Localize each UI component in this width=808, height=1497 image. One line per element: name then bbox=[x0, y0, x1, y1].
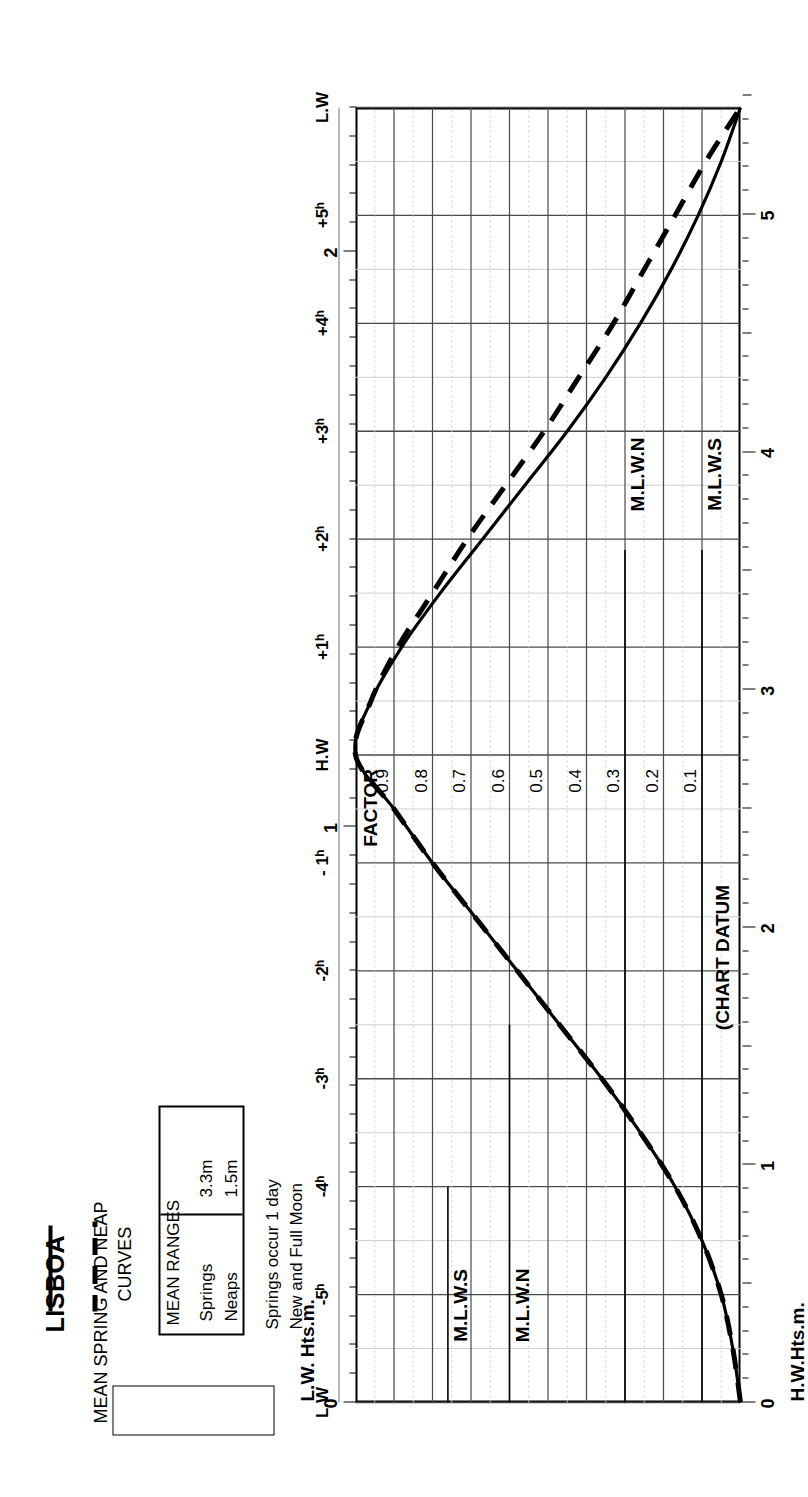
lw-tick bbox=[349, 1056, 356, 1057]
lw-tick bbox=[349, 710, 356, 711]
hw-tick bbox=[742, 427, 748, 428]
hw-tick bbox=[742, 736, 748, 737]
hw-tick bbox=[742, 284, 748, 285]
lw-tick bbox=[349, 1142, 356, 1143]
lw-tick bbox=[349, 1286, 356, 1287]
lw-tick bbox=[349, 1372, 356, 1373]
hw-tick bbox=[742, 1306, 748, 1307]
factor-axis-title: FACTOR bbox=[359, 768, 380, 846]
lw-tick bbox=[349, 1343, 356, 1344]
hw-height-axis: 012345 bbox=[742, 107, 788, 1402]
lw-tick bbox=[349, 365, 356, 366]
lw-tick bbox=[349, 221, 356, 222]
lw-tick-label-1: 1 bbox=[320, 822, 341, 832]
legend-row-springs-name: Springs bbox=[196, 1263, 216, 1321]
hw-tick bbox=[742, 569, 751, 570]
lw-tick bbox=[349, 451, 356, 452]
hw-tick bbox=[742, 926, 755, 927]
hw-tick bbox=[742, 1116, 748, 1117]
hw-tick-label-0: 0 bbox=[757, 1398, 778, 1408]
hw-tick bbox=[742, 1401, 755, 1402]
lw-tick bbox=[349, 1257, 356, 1258]
subtitle-line-2: CURVES bbox=[114, 1226, 135, 1301]
left-companion-box bbox=[112, 1385, 274, 1435]
factor-tick-0.5: 0.5 bbox=[527, 769, 546, 793]
factor-tick-0.4: 0.4 bbox=[565, 769, 584, 793]
hw-tick bbox=[742, 807, 751, 808]
lw-tick bbox=[349, 883, 356, 884]
hw-tick bbox=[742, 831, 748, 832]
lw-tick bbox=[343, 825, 356, 826]
plot-overlay-labels: 0.90.80.70.60.50.40.30.20.1FACTOR(CHART … bbox=[355, 107, 740, 1402]
hw-tick bbox=[742, 1021, 748, 1022]
hw-tick bbox=[742, 641, 748, 642]
lw-tick bbox=[349, 1171, 356, 1172]
legend-header: MEAN RANGES bbox=[163, 1199, 183, 1325]
lw-tick bbox=[349, 1200, 356, 1201]
lw-tick bbox=[349, 912, 356, 913]
lw-tick bbox=[349, 969, 356, 970]
lw-tick bbox=[349, 192, 356, 193]
lw-tick bbox=[349, 797, 356, 798]
hw-tick bbox=[742, 1377, 748, 1378]
hw-tick bbox=[742, 997, 748, 998]
hw-tick bbox=[742, 1330, 748, 1331]
legend-row-springs-range: 3.3m bbox=[196, 1159, 216, 1197]
factor-tick-0.8: 0.8 bbox=[411, 769, 430, 793]
lw-tick bbox=[349, 394, 356, 395]
lw-tick bbox=[349, 595, 356, 596]
chart-datum-label: (CHART DATUM bbox=[711, 884, 732, 1029]
lw-tick bbox=[349, 682, 356, 683]
hw-tick bbox=[742, 94, 751, 95]
lw-tick bbox=[349, 998, 356, 999]
lw-tick bbox=[349, 1084, 356, 1085]
hw-tick bbox=[742, 1235, 748, 1236]
hw-tick bbox=[742, 783, 748, 784]
factor-tick-0.1: 0.1 bbox=[681, 769, 700, 793]
left-mlws-marker: M.L.W.S bbox=[449, 1268, 470, 1341]
tidal-curve-plot: 0.90.80.70.60.50.40.30.20.1FACTOR(CHART … bbox=[355, 107, 740, 1402]
factor-tick-0.2: 0.2 bbox=[642, 769, 661, 793]
hw-tick bbox=[742, 1187, 748, 1188]
legend-row-neaps-range: 1.5m bbox=[221, 1159, 241, 1197]
lw-tick bbox=[343, 250, 356, 251]
hw-tick bbox=[742, 1140, 748, 1141]
lw-tick bbox=[343, 1401, 356, 1402]
lw-tick bbox=[349, 336, 356, 337]
lw-tick bbox=[349, 739, 356, 740]
left-mlwn-marker: M.L.W.N bbox=[511, 1268, 532, 1342]
hw-tick bbox=[742, 189, 748, 190]
lw-tick bbox=[349, 480, 356, 481]
hw-tick bbox=[742, 1353, 748, 1354]
hw-tick-label-2: 2 bbox=[757, 923, 778, 933]
hw-tick bbox=[742, 593, 748, 594]
page-title: LISBOA bbox=[40, 1235, 69, 1332]
hw-tick-label-3: 3 bbox=[757, 685, 778, 695]
lw-height-axis: 012 bbox=[322, 107, 356, 1402]
lw-tick bbox=[349, 307, 356, 308]
hw-tick bbox=[742, 1211, 748, 1212]
hw-tick bbox=[742, 522, 748, 523]
hw-tick bbox=[742, 1045, 751, 1046]
factor-tick-0.6: 0.6 bbox=[488, 769, 507, 793]
hw-tick bbox=[742, 308, 748, 309]
hw-tick bbox=[742, 712, 748, 713]
hw-tick bbox=[742, 165, 748, 166]
hw-tick bbox=[742, 356, 748, 357]
lw-tick bbox=[349, 164, 356, 165]
hw-tick bbox=[742, 973, 748, 974]
legend-sample-dashed-line bbox=[92, 1221, 97, 1311]
hw-tick bbox=[742, 1282, 751, 1283]
hw-tick bbox=[742, 451, 755, 452]
hw-tick bbox=[742, 1092, 748, 1093]
lw-tick bbox=[349, 106, 356, 107]
lw-tick bbox=[349, 1027, 356, 1028]
lw-tick-label-0: 0 bbox=[320, 1398, 341, 1408]
legend-row-neaps-name: Neaps bbox=[221, 1272, 241, 1321]
lw-tick bbox=[349, 768, 356, 769]
lw-tick bbox=[349, 653, 356, 654]
lw-tick bbox=[349, 941, 356, 942]
right-mlws-marker: M.L.W.S bbox=[704, 438, 725, 511]
hw-tick bbox=[742, 855, 748, 856]
